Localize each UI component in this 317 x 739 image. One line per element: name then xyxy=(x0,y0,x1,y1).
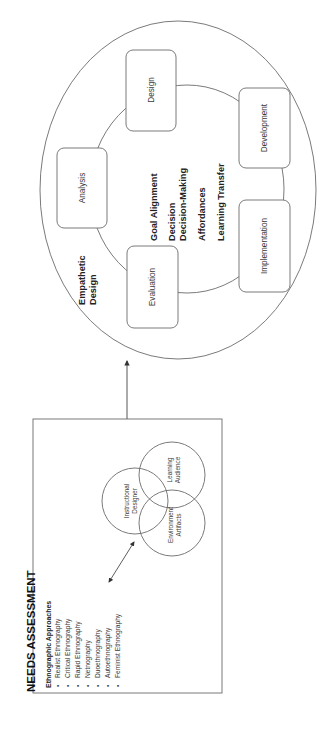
svg-text:Design: Design xyxy=(147,77,156,103)
phase-implementation: Implementation xyxy=(239,200,290,292)
list-item: Feminist Ethnography xyxy=(114,613,122,678)
svg-text:Analysis: Analysis xyxy=(78,173,87,204)
list-bullet: • xyxy=(84,684,91,687)
list-bullet: • xyxy=(104,684,111,687)
list-bullet: • xyxy=(54,684,61,687)
list-bullet: • xyxy=(64,684,71,687)
phase-analysis: Analysis xyxy=(57,148,107,228)
empathetic-design-group: Analysis Design Development Implementati… xyxy=(40,21,316,359)
svg-text:Development: Development xyxy=(260,103,269,152)
list-item: Realist Ethnography xyxy=(54,618,62,678)
term-learning-transfer: Learning Transfer xyxy=(216,163,226,241)
term-affordances: Affordances xyxy=(197,187,207,241)
phase-evaluation: Evaluation xyxy=(127,246,178,328)
phase-development: Development xyxy=(239,88,290,168)
approaches-list: • Realist Ethnography • Critical Ethnogr… xyxy=(54,613,122,687)
svg-text:Instructional: Instructional xyxy=(123,484,130,518)
svg-text:Audience: Audience xyxy=(174,456,181,483)
svg-text:Environment: Environment xyxy=(167,507,174,543)
svg-text:Implementation: Implementation xyxy=(260,218,269,274)
needs-assessment-title: NEEDS ASSESSMENT xyxy=(25,570,37,692)
venn-diagram: Instructional Designer Learning Audience… xyxy=(102,442,205,556)
double-arrow-icon xyxy=(109,542,134,582)
empathetic-design-label: Empathetic Design xyxy=(77,255,98,305)
needs-assessment-group: NEEDS ASSESSMENT Ethnographic Approaches… xyxy=(25,419,222,693)
list-item: Netnography xyxy=(84,640,92,678)
ethnographic-approaches-heading: Ethnographic Approaches xyxy=(45,601,53,688)
list-bullet: • xyxy=(94,684,101,687)
svg-text:Empathetic: Empathetic xyxy=(77,255,87,305)
needs-assessment-box xyxy=(33,419,222,693)
phase-design: Design xyxy=(126,50,176,131)
center-terms: Goal Alignment Decision Decision-Making … xyxy=(149,163,226,241)
term-goal-alignment: Goal Alignment xyxy=(149,173,159,241)
svg-text:Artifacts: Artifacts xyxy=(175,513,182,536)
list-bullet: • xyxy=(114,684,121,687)
term-decision-making: Decision-Making xyxy=(178,168,188,241)
svg-text:Design: Design xyxy=(88,274,98,305)
diagram-canvas: Analysis Design Development Implementati… xyxy=(0,0,317,739)
svg-text:Learning: Learning xyxy=(166,457,174,482)
term-decision: Decision xyxy=(167,202,177,241)
list-item: Rapid Ethnography xyxy=(74,621,82,678)
svg-text:Evaluation: Evaluation xyxy=(148,267,157,306)
list-bullet: • xyxy=(74,684,81,687)
list-item: Autoethnography xyxy=(104,627,112,678)
list-item: Duoethnography xyxy=(94,629,102,678)
list-item: Critical Ethnography xyxy=(64,618,72,678)
svg-text:Designer: Designer xyxy=(131,487,139,513)
